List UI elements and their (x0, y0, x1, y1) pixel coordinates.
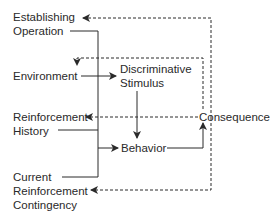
label-line: Stimulus (120, 76, 192, 90)
reinforcement-history-label: Reinforcement History (13, 110, 88, 138)
label-line: Current (13, 170, 88, 184)
label-line: Reinforcement (13, 184, 88, 198)
behavior-analysis-diagram: Establishing Operation Environment Discr… (0, 0, 280, 223)
establishing-operation-label: Establishing Operation (13, 10, 75, 38)
label-line: Contingency (13, 198, 88, 212)
discriminative-stimulus-label: Discriminative Stimulus (120, 62, 192, 90)
current-reinforcement-contingency-label: Current Reinforcement Contingency (13, 170, 88, 212)
behavior-to-consequence-arrow (167, 123, 203, 148)
label-line: Operation (13, 24, 75, 38)
label-line: Discriminative (120, 62, 192, 76)
behavior-label: Behavior (121, 141, 166, 155)
label-line: Establishing (13, 10, 75, 24)
label-line: Reinforcement (13, 110, 88, 124)
consequence-label: Consequence (199, 110, 270, 124)
label-line: History (13, 124, 88, 138)
environment-label: Environment (13, 69, 78, 83)
